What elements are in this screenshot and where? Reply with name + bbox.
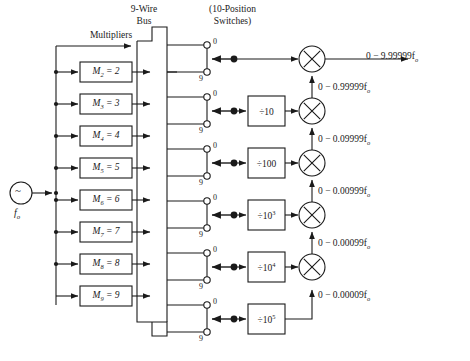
signal-label-4: 0 − 0.00999fo bbox=[318, 187, 370, 198]
rail-taps bbox=[56, 72, 78, 296]
divider-box-1: ÷10 bbox=[248, 96, 285, 126]
wiper-dots bbox=[231, 56, 238, 323]
bus-header-line1: 9-Wire bbox=[118, 5, 170, 15]
switch-1-terminal-bottom: 9 bbox=[199, 75, 203, 83]
switch-terminals bbox=[204, 42, 210, 335]
signal-label-2: 0 − 0.99999fo bbox=[318, 83, 370, 94]
nine-wire-bus bbox=[137, 27, 167, 336]
switch-6-terminal-bottom: 9 bbox=[199, 335, 203, 343]
switch-3-terminal-top: 0 bbox=[213, 142, 217, 150]
sine-wave-icon: ~ bbox=[15, 185, 21, 196]
divider-box-2: ÷100 bbox=[248, 148, 285, 178]
multiplier-outputs bbox=[132, 72, 150, 296]
source-label: fo bbox=[14, 208, 20, 221]
divider-box-5: ÷105 bbox=[248, 304, 285, 334]
switch-2-terminal-top: 0 bbox=[213, 90, 217, 98]
signal-label-6: 0 − 0.00009fo bbox=[318, 291, 370, 302]
switch-5-terminal-bottom: 9 bbox=[199, 283, 203, 291]
switch-4-terminal-bottom: 9 bbox=[199, 231, 203, 239]
multiplier-box-1: M2 = 2 bbox=[80, 62, 132, 82]
switches-header-line2: Switches) bbox=[185, 17, 280, 27]
switch-6-terminal-top: 0 bbox=[213, 298, 217, 306]
multiplier-box-2: M3 = 3 bbox=[80, 94, 132, 114]
switch-2-terminal-bottom: 9 bbox=[199, 127, 203, 135]
multiplier-box-7: M8 = 8 bbox=[80, 254, 132, 274]
divider-input-wires bbox=[234, 111, 246, 319]
source-symbol bbox=[10, 182, 32, 204]
multiplier-box-5: M6 = 6 bbox=[80, 190, 132, 210]
switch-1-terminal-top: 0 bbox=[213, 38, 217, 46]
bus-header-line2: Bus bbox=[118, 17, 170, 27]
switch-wipers bbox=[212, 59, 234, 319]
switches-header-line1: (10-Position bbox=[185, 5, 280, 15]
multiplier-box-4: M5 = 5 bbox=[80, 158, 132, 178]
switch-4-terminal-top: 0 bbox=[213, 194, 217, 202]
divider-output-wires bbox=[285, 111, 298, 267]
divider-box-4: ÷104 bbox=[248, 252, 285, 282]
multiplier-box-3: M4 = 4 bbox=[80, 126, 132, 146]
divider-box-3: ÷103 bbox=[248, 200, 285, 230]
switch-3-terminal-bottom: 9 bbox=[199, 179, 203, 187]
multiplier-box-8: M9 = 9 bbox=[80, 286, 132, 306]
signal-label-5: 0 − 0.00099fo bbox=[318, 239, 370, 250]
switch-5-terminal-top: 0 bbox=[213, 246, 217, 254]
multiplier-box-6: M7 = 7 bbox=[80, 222, 132, 242]
output-label-main: 0 − 9.99999fo bbox=[366, 52, 418, 63]
signal-label-3: 0 − 0.09999fo bbox=[318, 135, 370, 146]
diagram-canvas: Multipliers 9-Wire Bus (10-Position Swit… bbox=[0, 0, 470, 361]
multipliers-header: Multipliers bbox=[66, 31, 156, 41]
